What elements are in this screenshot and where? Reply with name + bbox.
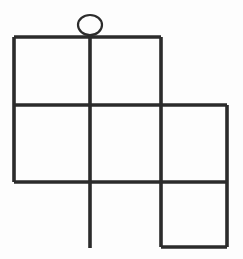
ellipse-group [78, 15, 102, 35]
head-ellipse [78, 15, 102, 35]
line-drawing-figure [0, 0, 243, 259]
line-segments-group [14, 37, 227, 248]
drawing-canvas [0, 0, 243, 259]
